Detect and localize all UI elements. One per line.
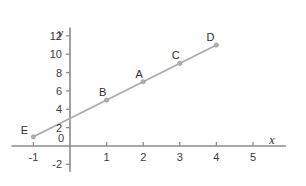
point-label-c: C: [172, 50, 180, 61]
y-tick-label-2: 2: [56, 123, 62, 134]
data-point-b: [105, 98, 109, 102]
point-label-b: B: [99, 87, 106, 98]
y-tick-label-4: 4: [56, 104, 62, 115]
x-tick-label-5: 5: [250, 152, 256, 163]
y-tick-label-8: 8: [56, 68, 62, 79]
x-tick-label-3: 3: [177, 152, 183, 163]
x-tick-label-4: 4: [213, 152, 219, 163]
point-label-a: A: [136, 69, 143, 80]
y-tick-label-neg2: -2: [52, 159, 62, 170]
plot-canvas: [0, 0, 306, 186]
y-tick-label-6: 6: [56, 86, 62, 97]
point-label-e: E: [21, 125, 28, 136]
data-point-a: [141, 80, 145, 84]
x-axis-title: x: [269, 134, 274, 146]
point-label-d: D: [206, 32, 214, 43]
x-tick-label-neg1: -1: [29, 152, 39, 163]
x-tick-label-0: 0: [58, 133, 64, 144]
x-tick-label-1: 1: [104, 152, 110, 163]
data-point-c: [178, 61, 182, 65]
tick-marks-group: [33, 36, 253, 165]
y-tick-label-10: 10: [50, 49, 62, 60]
data-point-e: [31, 135, 35, 139]
graph-figure: -1012345-224681012xyEBACD: [0, 0, 306, 186]
y-axis-title: y: [58, 27, 63, 39]
data-point-d: [214, 43, 218, 47]
x-tick-label-2: 2: [140, 152, 146, 163]
